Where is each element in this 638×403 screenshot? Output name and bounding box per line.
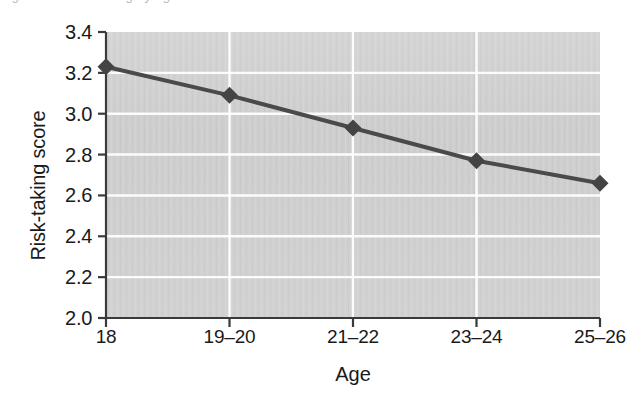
x-axis-tick-label: 18 bbox=[96, 326, 117, 348]
x-axis-tick-label: 25–26 bbox=[574, 326, 626, 348]
x-axis-tick-label: 19–20 bbox=[204, 326, 256, 348]
x-axis-tick-label: 23–24 bbox=[451, 326, 503, 348]
risk-taking-by-age-figure: Figure 9.4 Risk-taking by age Risk-takin… bbox=[0, 0, 638, 403]
x-axis-tick-label: 21–22 bbox=[327, 326, 379, 348]
